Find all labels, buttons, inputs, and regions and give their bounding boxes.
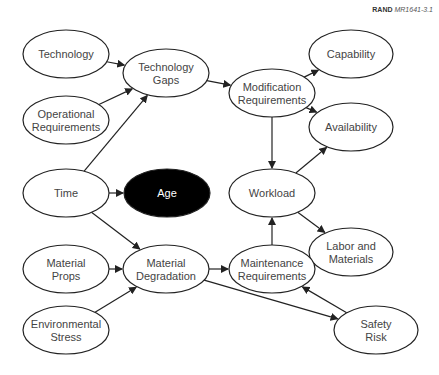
node-label: Technology: [38, 48, 94, 60]
node-material-degradation: MaterialDegradation: [123, 245, 209, 293]
node-technology: Technology: [23, 30, 109, 78]
edge-workload-to-labor-and-materials: [298, 212, 325, 232]
node-label: Availability: [325, 121, 377, 133]
node-label: Material: [46, 257, 85, 269]
node-label: Operational: [38, 108, 95, 120]
node-label: Risk: [365, 331, 387, 343]
node-modification-requirements: ModificationRequirements: [229, 69, 315, 117]
node-label: Materials: [329, 253, 374, 265]
edge-environmental-stress-to-material-degradation: [95, 287, 136, 312]
node-label: Technology: [138, 61, 194, 73]
node-safety-risk: SafetyRisk: [334, 306, 418, 354]
edge-workload-to-availability: [296, 147, 327, 173]
node-age: Age: [124, 169, 210, 217]
edge-operational-requirements-to-technology-gaps: [99, 89, 132, 105]
node-workload: Workload: [229, 169, 315, 217]
node-label: Degradation: [136, 270, 196, 282]
node-label: Requirements: [32, 121, 101, 133]
node-label: Gaps: [153, 74, 180, 86]
edge-modification-requirements-to-availability: [306, 108, 316, 113]
node-environmental-stress: EnvironmentalStress: [23, 306, 109, 354]
node-labor-and-materials: Labor andMaterials: [309, 228, 393, 276]
node-technology-gaps: TechnologyGaps: [123, 49, 209, 97]
node-material-props: MaterialProps: [23, 245, 109, 293]
node-label: Environmental: [31, 318, 101, 330]
node-label: Maintenance: [241, 257, 304, 269]
node-label: Modification: [243, 81, 302, 93]
node-label: Stress: [50, 331, 82, 343]
node-capability: Capability: [309, 30, 393, 78]
node-label: Capability: [327, 48, 376, 60]
nodes: TechnologyOperationalRequirementsTechnol…: [23, 30, 418, 354]
node-label: Time: [54, 187, 78, 199]
node-time: Time: [23, 169, 109, 217]
node-availability: Availability: [309, 103, 393, 151]
edge-technology-to-technology-gaps: [107, 62, 125, 65]
influence-diagram: TechnologyOperationalRequirementsTechnol…: [0, 0, 439, 375]
node-label: Requirements: [238, 94, 307, 106]
edge-modification-requirements-to-capability: [304, 70, 318, 77]
edge-technology-gaps-to-modification-requirements: [207, 81, 231, 85]
edge-safety-risk-to-maintenance-requirements: [303, 287, 347, 313]
node-label: Age: [157, 187, 177, 199]
node-label: Labor and: [326, 240, 376, 252]
node-label: Workload: [249, 187, 295, 199]
node-operational-requirements: OperationalRequirements: [23, 96, 109, 144]
node-label: Material: [146, 257, 185, 269]
node-label: Requirements: [238, 270, 307, 282]
node-label: Props: [52, 270, 81, 282]
node-maintenance-requirements: MaintenanceRequirements: [229, 245, 315, 293]
edge-time-to-material-degradation: [91, 212, 139, 249]
node-label: Safety: [360, 318, 392, 330]
